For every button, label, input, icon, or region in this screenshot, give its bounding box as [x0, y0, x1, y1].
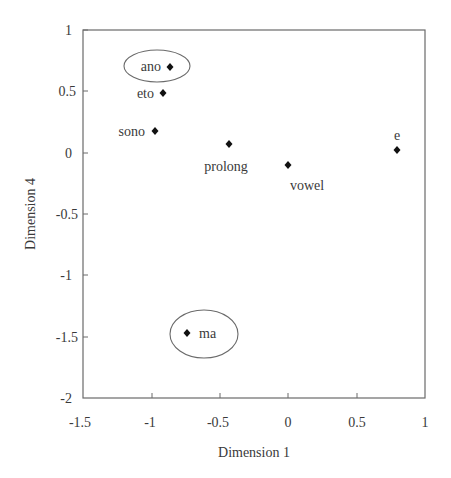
- plot-frame: [83, 30, 425, 398]
- y-tick-label: 1: [65, 23, 72, 38]
- point-label-vowel: vowel: [290, 178, 324, 193]
- data-points: [152, 63, 401, 337]
- diamond-marker-prolong: [226, 140, 233, 148]
- point-label-ma: ma: [199, 326, 217, 341]
- x-tick-label: -1: [144, 415, 156, 430]
- point-label-prolong: prolong: [204, 159, 248, 174]
- x-tick-label: 0.5: [348, 415, 366, 430]
- diamond-marker-vowel: [285, 161, 292, 169]
- y-tick-label: 0: [65, 146, 72, 161]
- y-tick-label: 0.5: [59, 84, 77, 99]
- x-tick-label: -1.5: [69, 415, 91, 430]
- diamond-marker-ma: [184, 329, 191, 337]
- diamond-marker-ano: [167, 63, 174, 71]
- x-tick-label: -0.5: [207, 415, 229, 430]
- y-tick-label: -2: [60, 391, 72, 406]
- point-label-e: e: [394, 128, 400, 143]
- x-axis: -1.5 -1 -0.5 0 0.5 1 Dimension 1: [69, 393, 429, 460]
- y-tick-label: -0.5: [56, 207, 78, 222]
- x-tick-label: 1: [422, 415, 429, 430]
- y-tick-label: -1.5: [56, 330, 78, 345]
- y-axis-title: Dimension 4: [23, 178, 38, 250]
- y-tick-label: -1: [60, 268, 72, 283]
- diamond-marker-eto: [160, 89, 167, 97]
- point-label-eto: eto: [137, 86, 154, 101]
- point-label-sono: sono: [119, 124, 145, 139]
- point-label-ano: ano: [141, 59, 161, 74]
- y-axis: 1 0.5 0 -0.5 -1 -1.5 -2 Dimension 4: [23, 23, 88, 406]
- diamond-marker-sono: [152, 127, 159, 135]
- x-axis-title: Dimension 1: [218, 445, 290, 460]
- x-tick-label: 0: [285, 415, 292, 430]
- diamond-marker-e: [394, 146, 401, 154]
- point-labels: ano eto sono prolong vowel e ma: [119, 59, 401, 341]
- scatter-chart: 1 0.5 0 -0.5 -1 -1.5 -2 Dimension 4 -1.5…: [0, 0, 451, 478]
